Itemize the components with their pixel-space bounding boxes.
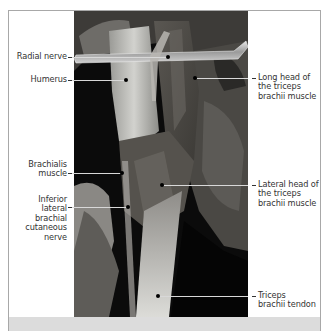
- leader-line-lateral-head: [164, 185, 248, 186]
- marker-dot-humerus: [124, 78, 128, 82]
- leader-line-cutaneous-nerve: [72, 207, 127, 208]
- label-radial-nerve: Radial nerve: [14, 52, 67, 61]
- marker-dot-brachialis: [120, 171, 124, 175]
- marker-dot-radial-nerve: [166, 55, 170, 59]
- label-humerus: Humerus: [14, 75, 67, 84]
- label-lateral-head-triceps: Lateral head of the triceps brachii musc…: [258, 180, 322, 208]
- label-brachialis-muscle: Brachialis muscle: [14, 160, 67, 179]
- caption-strip: [9, 317, 320, 331]
- label-long-head-triceps: Long head of the triceps brachii muscle: [258, 73, 322, 101]
- leader-line-triceps-tendon: [160, 296, 248, 297]
- leader-tick: [252, 78, 256, 79]
- leader-line-long-head: [197, 78, 248, 79]
- label-inferior-lateral-brachial-cutaneous-nerve: Inferior lateral brachial cutaneous nerv…: [14, 195, 67, 242]
- marker-dot-cutaneous-nerve: [126, 205, 130, 209]
- leader-line-humerus: [72, 80, 125, 81]
- label-triceps-tendon: Triceps brachii tendon: [258, 291, 322, 310]
- leader-line-radial-nerve: [72, 57, 168, 58]
- leader-tick: [252, 185, 256, 186]
- leader-tick: [252, 296, 256, 297]
- leader-line-brachialis: [72, 173, 122, 174]
